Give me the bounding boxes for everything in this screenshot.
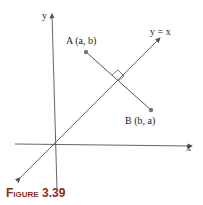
x-axis [15,144,192,146]
figure-caption: Figure 3.39 [6,186,65,200]
point-a [84,50,88,54]
figure-caption-number: 3.39 [42,186,65,200]
point-a-label: A (a, b) [66,35,96,46]
x-axis-label: x [186,142,191,153]
figure-caption-word: Figure [6,186,39,200]
line-label: y = x [150,26,171,37]
y-axis-label: y [42,10,47,21]
y-axis [52,14,57,190]
point-b [149,108,153,112]
point-b-label: B (b, a) [125,115,155,126]
line-y-equals-x [20,38,160,178]
diagram [0,0,203,205]
